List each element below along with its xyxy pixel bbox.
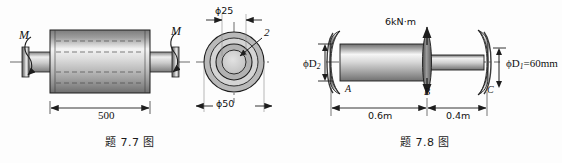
inner-diameter-label: ϕ25: [215, 5, 233, 16]
figure-7-7-drawing: [10, 30, 190, 114]
outer-diameter-label: ϕ50: [216, 98, 234, 109]
shaft-segment-bc: [430, 55, 484, 70]
diameter-d2-subscript: 2: [317, 62, 321, 71]
figure-caption-7-7: 题 7.7 图: [105, 133, 155, 149]
point-a-label: A: [345, 83, 351, 94]
diameter-d2-label: ϕD2: [303, 57, 320, 71]
figure-caption-7-8: 题 7.8 图: [400, 133, 450, 149]
point-b-label: B: [424, 86, 430, 97]
point-c-label: C: [487, 84, 494, 95]
dimension-d1: [493, 48, 506, 88]
flange-left-a: [327, 31, 340, 94]
torque-label-left: M: [19, 28, 29, 43]
engineering-figure-page: M M 500 ϕ25 ϕ50 2 6kN·m ϕD2 ϕD1=60mm A B…: [0, 0, 562, 163]
hub-cylinder: [50, 30, 150, 93]
figure-drawing-canvas: [0, 0, 562, 163]
shaft-segment-ab: [340, 44, 424, 81]
diameter-d2-symbol: ϕD: [303, 57, 317, 69]
diameter-d1-value: =60mm: [523, 57, 557, 69]
figure-7-8-drawing: [318, 27, 506, 116]
section-marker-label: 2: [264, 26, 270, 38]
diameter-d1-label: ϕD1=60mm: [506, 57, 558, 71]
span-ab-label: 0.6m: [368, 110, 392, 121]
shaft-stub-right: [148, 52, 174, 72]
diameter-d1-symbol: ϕD: [506, 57, 520, 69]
torque-value-label: 6kN·m: [385, 16, 416, 27]
span-bc-label: 0.4m: [446, 110, 470, 121]
length-dimension-label: 500: [98, 109, 115, 121]
torque-label-right: M: [171, 24, 181, 39]
